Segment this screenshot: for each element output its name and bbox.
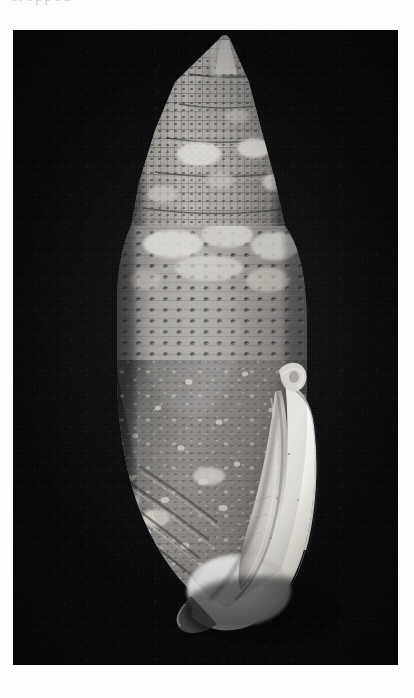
shell-photograph-plate [13, 30, 398, 665]
cropped-text-remnant: cropped [10, 0, 130, 6]
shell-photo [13, 30, 398, 665]
plate-caption [0, 0, 1, 1]
shell-illustration [13, 30, 398, 665]
scanned-page: cropped [0, 0, 414, 698]
